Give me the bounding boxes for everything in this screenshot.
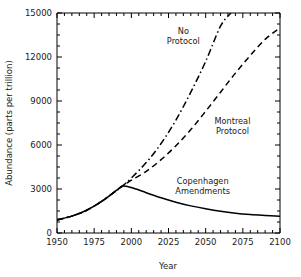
y-tick-label: 0 xyxy=(47,228,52,238)
curve-copenhagen-amendments xyxy=(57,186,280,220)
x-axis-title: Year xyxy=(158,261,178,271)
x-tick-label: 2100 xyxy=(269,237,291,247)
annotation-line: Copenhagen xyxy=(177,176,229,186)
y-axis-tick-labels: 03000600090001200015000 xyxy=(25,8,52,238)
annotation-line: Amendments xyxy=(175,186,230,196)
x-axis-tick-labels: 1950197520002025205020752100 xyxy=(46,237,291,247)
annotation-line: Protocol xyxy=(167,36,200,46)
x-tick-label: 1975 xyxy=(83,237,105,247)
annotation-no-protocol: NoProtocol xyxy=(167,26,200,46)
x-tick-label: 2050 xyxy=(195,237,217,247)
y-axis-title: Abundance (parts per trillion) xyxy=(4,60,14,185)
annotation-copenhagen-amendments: CopenhagenAmendments xyxy=(175,176,230,196)
annotation-line: Protocol xyxy=(216,126,249,136)
x-tick-label: 1950 xyxy=(46,237,68,247)
x-tick-label: 2025 xyxy=(158,237,180,247)
annotation-montreal-protocol: MontrealProtocol xyxy=(214,116,250,136)
x-tick-label: 2075 xyxy=(232,237,254,247)
chart-figure: 1950197520002025205020752100 03000600090… xyxy=(0,0,301,277)
y-tick-label: 12000 xyxy=(25,52,52,62)
abundance-line-chart: 1950197520002025205020752100 03000600090… xyxy=(0,0,301,277)
y-tick-label: 3000 xyxy=(30,184,52,194)
y-tick-label: 9000 xyxy=(30,96,52,106)
annotation-line: Montreal xyxy=(214,116,250,126)
y-tick-label: 15000 xyxy=(25,8,52,18)
curve-annotations: NoProtocolMontrealProtocolCopenhagenAmen… xyxy=(167,26,251,196)
y-tick-label: 6000 xyxy=(30,140,52,150)
x-tick-label: 2000 xyxy=(121,237,143,247)
annotation-line: No xyxy=(178,26,189,36)
